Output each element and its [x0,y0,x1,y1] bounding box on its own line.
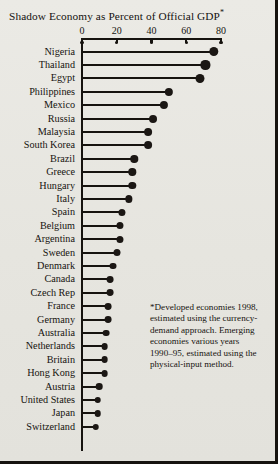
value-dot [110,263,117,270]
chart-card: Shadow Economy as Percent of Official GD… [0,0,278,464]
value-dot [101,343,108,350]
category-label: Spain [52,205,75,218]
category-label: Mexico [44,98,75,111]
category-label: Britain [47,353,75,366]
x-tick-dot [185,41,188,44]
value-stem [82,158,134,160]
category-label: Austria [45,380,75,393]
category-label: Hong Kong [27,366,75,379]
category-label: Argentina [34,232,75,245]
value-dot [106,276,113,283]
value-dot [201,60,210,69]
chart-row: Hungary [0,179,278,192]
value-dot [196,74,205,83]
category-label: Sweden [43,246,75,259]
x-tick-label: 0 [80,25,85,36]
value-dot [125,195,132,202]
value-dot [165,88,173,96]
x-tick-label: 60 [181,25,191,36]
x-tick-dot [115,41,118,44]
x-tick-dot [150,41,153,44]
chart-row: Mexico [0,99,278,112]
value-dot [209,47,218,56]
chart-row: Brazil [0,152,278,165]
chart-row: Philippines [0,85,278,98]
footnote: *Developed economies 1998,estimated usin… [150,302,266,370]
category-label: Belgium [40,219,75,232]
footnote-line: demand approach. Emerging [150,325,266,336]
chart-row: Greece [0,166,278,179]
value-dot [144,128,152,136]
category-label: Czech Rep [31,286,75,299]
value-stem [82,144,148,146]
x-tick-label: 20 [112,25,122,36]
chart-row: United States [0,393,278,406]
value-dot [96,383,103,390]
chart-row: Czech Rep [0,286,278,299]
x-tick-dot [80,41,83,44]
category-label: Egypt [51,71,75,84]
category-label: Nigeria [44,45,75,58]
category-label: United States [20,393,75,406]
footnote-line: physical-input method. [150,359,266,370]
category-label: Netherlands [26,339,75,352]
value-stem [82,185,132,187]
value-dot [103,330,110,337]
value-dot [93,424,100,431]
value-stem [82,131,148,133]
value-dot [117,222,124,229]
chart-row: South Korea [0,139,278,152]
value-dot [118,209,125,216]
value-dot [129,182,136,189]
value-stem [82,252,117,254]
footnote-line: 1990–95, estimated using the [150,348,266,359]
value-dot [117,236,124,243]
category-label: Denmark [37,259,75,272]
chart-title: Shadow Economy as Percent of Official GD… [9,8,224,22]
footnote-line: economies various years [150,336,266,347]
chart-row: Russia [0,112,278,125]
chart-row: Thailand [0,58,278,71]
chart-row: Malaysia [0,125,278,138]
footnote-line: *Developed economies 1998, [150,302,266,313]
chart-row: Switzerland [0,420,278,433]
category-label: Malaysia [38,125,75,138]
category-label: South Korea [24,138,75,151]
chart-row: Argentina [0,233,278,246]
chart-row: Denmark [0,259,278,272]
chart-row: Egypt [0,72,278,85]
chart-row: Canada [0,273,278,286]
value-dot [101,370,108,377]
category-label: Brazil [50,152,75,165]
category-label: France [47,299,75,312]
category-label: Greece [46,165,75,178]
chart-row: Belgium [0,219,278,232]
value-dot [144,141,152,149]
category-label: Thailand [39,58,75,71]
category-label: Germany [37,313,75,326]
category-label: Russia [48,112,75,125]
chart-row: Japan [0,407,278,420]
chart-row: Sweden [0,246,278,259]
chart-title-footnote-marker: * [220,8,224,17]
value-dot [94,397,101,404]
chart-row: Italy [0,192,278,205]
value-stem [82,104,164,106]
value-dot [160,101,168,109]
value-stem [82,51,214,53]
value-dot [105,303,112,310]
value-stem [82,64,205,66]
category-label: Australia [38,326,75,339]
value-dot [94,410,101,417]
category-label: Italy [56,192,75,205]
x-tick-label: 80 [216,25,226,36]
value-dot [113,249,120,256]
category-label: Japan [52,406,75,419]
value-stem [82,238,120,240]
value-stem [82,118,153,120]
value-stem [82,91,169,93]
category-label: Philippines [29,85,75,98]
chart-row: Austria [0,380,278,393]
value-stem [82,198,129,200]
x-tick-label: 40 [147,25,157,36]
